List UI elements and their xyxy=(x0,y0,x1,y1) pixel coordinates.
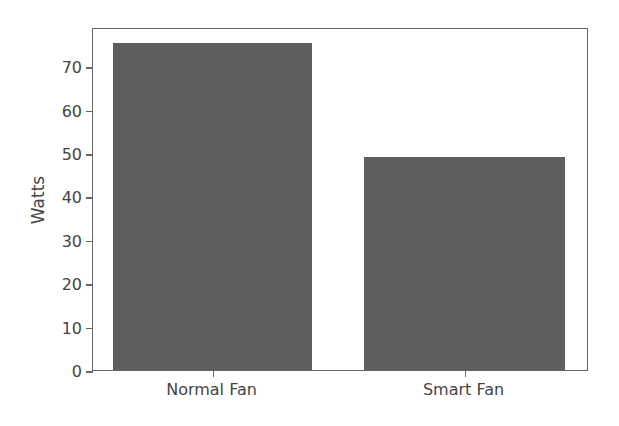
y-tick xyxy=(86,67,93,69)
bar-normal-fan xyxy=(113,43,312,370)
y-tick xyxy=(86,111,93,113)
y-tick-label: 50 xyxy=(42,145,82,164)
y-tick xyxy=(86,371,93,373)
x-tick xyxy=(213,370,215,377)
bar-smart-fan xyxy=(364,157,565,370)
x-tick-label: Normal Fan xyxy=(166,380,257,399)
plot-area xyxy=(92,28,588,371)
y-tick xyxy=(86,284,93,286)
y-tick xyxy=(86,241,93,243)
y-tick xyxy=(86,154,93,156)
y-tick-label: 40 xyxy=(42,188,82,207)
y-tick-label: 30 xyxy=(42,231,82,250)
y-tick-label: 20 xyxy=(42,275,82,294)
y-tick-label: 10 xyxy=(42,318,82,337)
x-tick xyxy=(465,370,467,377)
y-tick-label: 0 xyxy=(42,362,82,381)
y-tick-label: 70 xyxy=(42,58,82,77)
y-tick xyxy=(86,197,93,199)
y-tick-label: 60 xyxy=(42,101,82,120)
x-tick-label: Smart Fan xyxy=(423,380,504,399)
y-tick xyxy=(86,328,93,330)
